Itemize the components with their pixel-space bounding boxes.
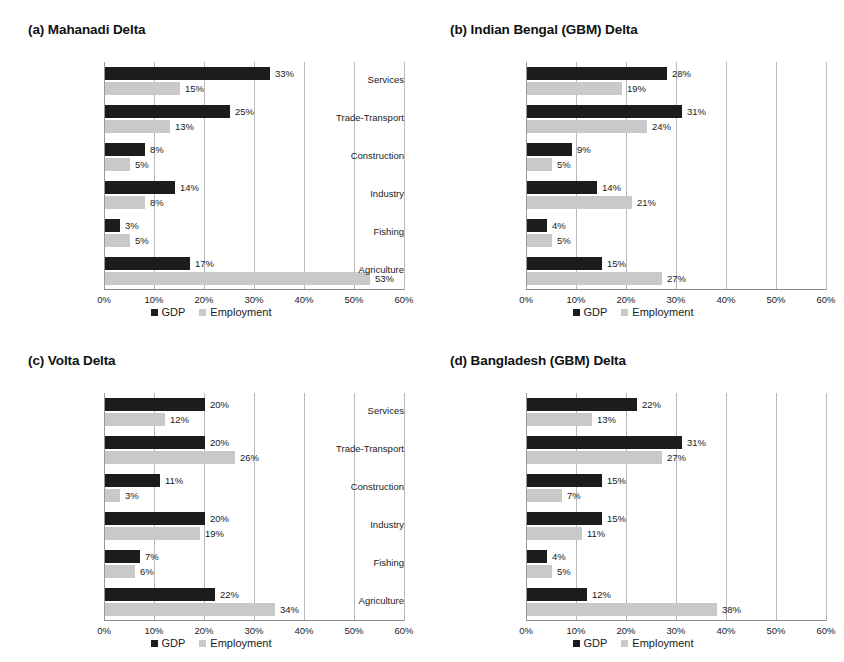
legend-label: GDP: [162, 306, 186, 318]
legend-item-employment[interactable]: Employment: [199, 637, 271, 649]
legend-swatch-employment: [199, 309, 206, 316]
plot-area: Agriculture15%27%Fishing4%5%Industry14%2…: [526, 62, 826, 290]
bar-employment: [527, 234, 552, 247]
x-tick-label: 50%: [756, 294, 796, 305]
category-label: Fishing: [104, 557, 404, 568]
bar-employment: [527, 413, 592, 426]
bar-gdp: [527, 512, 602, 525]
x-tick-label: 30%: [656, 294, 696, 305]
category-group: Fishing4%5%: [527, 214, 826, 252]
bar-employment: [527, 489, 562, 502]
category-group: Trade-Transport31%24%: [527, 100, 826, 138]
legend-label: Employment: [210, 637, 271, 649]
bar-gdp: [527, 67, 667, 80]
x-tick-label: 60%: [806, 294, 844, 305]
bar-value-label-gdp: 4%: [552, 219, 566, 232]
x-tick-label: 20%: [606, 625, 646, 636]
legend-swatch-gdp: [151, 640, 158, 647]
chart-title: (a) Mahanadi Delta: [28, 22, 145, 37]
x-tick-label: 50%: [334, 625, 374, 636]
legend-swatch-employment: [621, 309, 628, 316]
category-group: Agriculture12%38%: [527, 583, 826, 621]
chart-panel-d: (d) Bangladesh (GBM) DeltaAgriculture12%…: [422, 331, 844, 662]
chart-legend: GDPEmployment: [422, 637, 844, 649]
x-tick-label: 60%: [384, 625, 424, 636]
legend-swatch-gdp: [573, 309, 580, 316]
bar-value-label-employment: 13%: [597, 413, 616, 426]
bar-value-label-gdp: 9%: [577, 143, 591, 156]
x-tick-label: 30%: [234, 625, 274, 636]
legend-item-gdp[interactable]: GDP: [151, 637, 186, 649]
bar-value-label-employment: 7%: [567, 489, 581, 502]
bar-employment: [527, 272, 662, 285]
bar-value-label-gdp: 14%: [602, 181, 621, 194]
gridline-60: [826, 62, 827, 290]
x-tick-label: 20%: [606, 294, 646, 305]
x-tick-label: 40%: [284, 294, 324, 305]
bar-value-label-gdp: 22%: [642, 398, 661, 411]
chart-panel-c: (c) Volta DeltaAgriculture22%34%Fishing7…: [0, 331, 422, 662]
x-tick-label: 10%: [134, 294, 174, 305]
bar-employment: [527, 603, 717, 616]
bar-gdp: [527, 257, 602, 270]
x-tick-label: 30%: [656, 625, 696, 636]
x-tick-label: 60%: [806, 625, 844, 636]
bar-value-label-gdp: 4%: [552, 550, 566, 563]
bar-gdp: [527, 181, 597, 194]
legend-item-employment[interactable]: Employment: [199, 306, 271, 318]
legend-item-employment[interactable]: Employment: [621, 637, 693, 649]
bar-value-label-employment: 24%: [652, 120, 671, 133]
x-tick-label: 50%: [756, 625, 796, 636]
category-group: Industry15%11%: [527, 507, 826, 545]
legend-item-employment[interactable]: Employment: [621, 306, 693, 318]
figure-panel-grid: (a) Mahanadi DeltaAgriculture17%53%Fishi…: [0, 0, 844, 662]
legend-swatch-employment: [621, 640, 628, 647]
bar-value-label-employment: 21%: [637, 196, 656, 209]
bar-value-label-employment: 5%: [557, 158, 571, 171]
x-tick-label: 50%: [334, 294, 374, 305]
x-tick-label: 30%: [234, 294, 274, 305]
gridline-60: [404, 62, 405, 290]
bar-value-label-employment: 5%: [557, 234, 571, 247]
legend-item-gdp[interactable]: GDP: [573, 306, 608, 318]
legend-label: Employment: [632, 306, 693, 318]
bar-value-label-gdp: 31%: [687, 105, 706, 118]
bar-employment: [527, 565, 552, 578]
category-label: Services: [104, 405, 404, 416]
bar-employment: [527, 196, 632, 209]
bar-employment: [527, 527, 582, 540]
x-tick-label: 0%: [84, 294, 124, 305]
bar-employment: [527, 82, 622, 95]
bar-value-label-gdp: 15%: [607, 257, 626, 270]
x-tick-label: 60%: [384, 294, 424, 305]
legend-item-gdp[interactable]: GDP: [573, 637, 608, 649]
x-tick-label: 10%: [556, 294, 596, 305]
category-label: Fishing: [104, 226, 404, 237]
category-label: Trade-Transport: [104, 112, 404, 123]
legend-label: Employment: [210, 306, 271, 318]
category-group: Fishing4%5%: [527, 545, 826, 583]
x-tick-label: 0%: [84, 625, 124, 636]
bar-gdp: [527, 219, 547, 232]
category-label: Agriculture: [104, 264, 404, 275]
gridline-60: [404, 393, 405, 621]
legend-item-gdp[interactable]: GDP: [151, 306, 186, 318]
gridline-60: [826, 393, 827, 621]
legend-swatch-employment: [199, 640, 206, 647]
bar-value-label-employment: 19%: [627, 82, 646, 95]
bar-value-label-employment: 27%: [667, 451, 686, 464]
category-group: Agriculture15%27%: [527, 252, 826, 290]
category-group: Industry14%21%: [527, 176, 826, 214]
category-group: Trade-Transport31%27%: [527, 431, 826, 469]
x-tick-label: 20%: [184, 294, 224, 305]
bar-gdp: [527, 398, 637, 411]
x-tick-label: 0%: [506, 625, 546, 636]
chart-panel-b: (b) Indian Bengal (GBM) DeltaAgriculture…: [422, 0, 844, 331]
bar-gdp: [527, 105, 682, 118]
x-tick-label: 40%: [284, 625, 324, 636]
legend-label: GDP: [584, 637, 608, 649]
plot-area: Agriculture12%38%Fishing4%5%Industry15%1…: [526, 393, 826, 621]
x-tick-label: 10%: [556, 625, 596, 636]
x-tick-label: 10%: [134, 625, 174, 636]
bar-value-label-gdp: 31%: [687, 436, 706, 449]
